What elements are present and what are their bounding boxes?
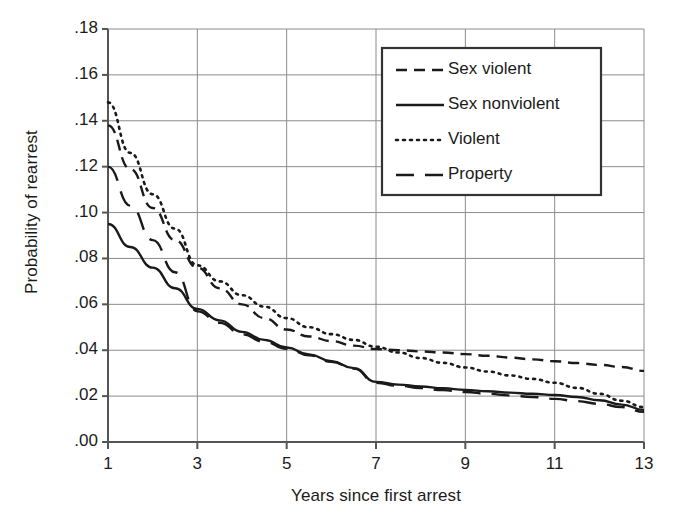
y-tick-label: .04 xyxy=(46,339,98,359)
y-tick-label: .12 xyxy=(46,156,98,176)
legend-label: Sex violent xyxy=(448,59,531,79)
x-tick-label: 9 xyxy=(445,454,485,474)
x-tick-label: 11 xyxy=(535,454,575,474)
plot-canvas xyxy=(0,0,679,525)
y-tick-label: .18 xyxy=(46,18,98,38)
chart-figure: Probability of rearrest Years since firs… xyxy=(0,0,679,525)
x-axis-title: Years since first arrest xyxy=(108,486,644,506)
x-tick-label: 3 xyxy=(177,454,217,474)
y-tick-label: .16 xyxy=(46,64,98,84)
legend-label: Property xyxy=(448,164,512,184)
y-tick-label: .10 xyxy=(46,202,98,222)
x-tick-label: 7 xyxy=(356,454,396,474)
y-tick-label: .08 xyxy=(46,247,98,267)
y-tick-label: .14 xyxy=(46,110,98,130)
x-tick-label: 13 xyxy=(624,454,664,474)
x-tick-label: 1 xyxy=(88,454,128,474)
y-tick-label: .00 xyxy=(46,431,98,451)
x-tick-label: 5 xyxy=(267,454,307,474)
y-tick-label: .02 xyxy=(46,385,98,405)
y-axis-title: Probability of rearrest xyxy=(22,92,42,332)
legend-label: Violent xyxy=(448,129,500,149)
legend-label: Sex nonviolent xyxy=(448,94,560,114)
y-tick-label: .06 xyxy=(46,293,98,313)
